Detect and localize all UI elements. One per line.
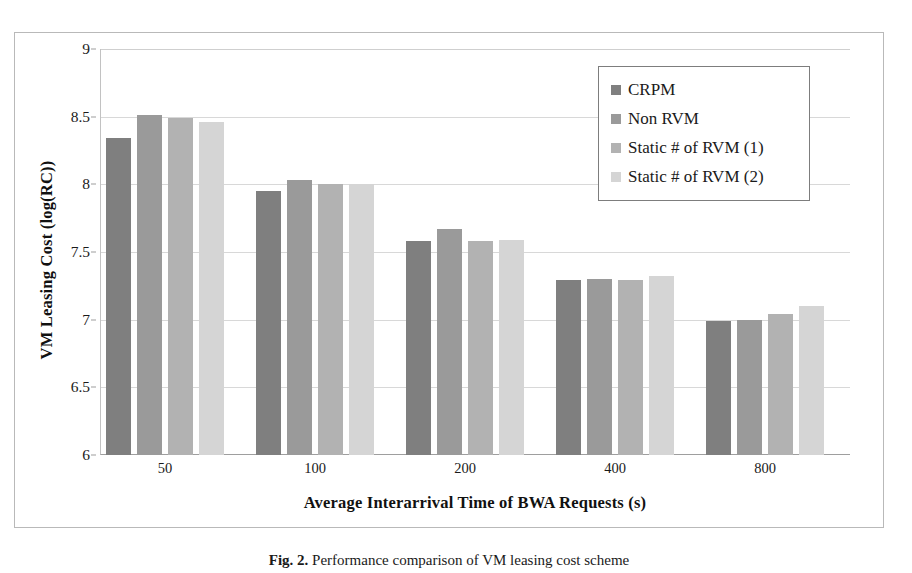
bar [406, 241, 431, 455]
x-tick-label: 50 [158, 460, 173, 477]
bar [287, 180, 312, 455]
y-tick-mark [91, 455, 96, 456]
bar-group [100, 49, 250, 455]
legend-item: Non RVM [611, 104, 799, 133]
chart-legend: CRPMNon RVMStatic # of RVM (1)Static # o… [598, 66, 810, 201]
caption-label: Fig. 2. [269, 552, 309, 568]
figure-caption: Fig. 2. Performance comparison of VM lea… [14, 552, 884, 569]
y-tick-mark [91, 116, 96, 117]
bar [618, 280, 643, 455]
y-tick-label: 6.5 [71, 378, 90, 396]
bar [649, 276, 674, 455]
legend-swatch-icon [611, 143, 621, 153]
bar [706, 321, 731, 455]
caption-text: Performance comparison of VM leasing cos… [312, 552, 629, 568]
bar-group [400, 49, 550, 455]
bar [106, 138, 131, 455]
legend-swatch-icon [611, 85, 621, 95]
bar [318, 184, 343, 455]
x-tick-label: 800 [754, 460, 776, 477]
legend-label: CRPM [628, 81, 675, 98]
y-axis-ticks: 66.577.588.59 [52, 49, 96, 455]
bar [437, 229, 462, 455]
x-axis-title: Average Interarrival Time of BWA Request… [100, 493, 850, 513]
bar [737, 320, 762, 455]
y-tick-label: 9 [82, 40, 90, 58]
y-tick-mark [91, 184, 96, 185]
legend-item: CRPM [611, 75, 799, 104]
bar [468, 241, 493, 455]
bar [556, 280, 581, 455]
y-tick-mark [91, 387, 96, 388]
y-tick-label: 6 [82, 446, 90, 464]
legend-swatch-icon [611, 172, 621, 182]
bar [768, 314, 793, 455]
bar [587, 279, 612, 455]
y-tick-label: 8 [82, 175, 90, 193]
bar [256, 191, 281, 455]
legend-label: Static # of RVM (2) [628, 168, 764, 185]
y-tick-mark [91, 49, 96, 50]
y-tick-label: 7.5 [71, 243, 90, 261]
legend-swatch-icon [611, 114, 621, 124]
bar [168, 118, 193, 455]
x-tick-label: 400 [604, 460, 626, 477]
bar [349, 184, 374, 455]
x-tick-label: 200 [454, 460, 476, 477]
y-tick-label: 7 [82, 311, 90, 329]
y-tick-mark [91, 252, 96, 253]
bar [137, 115, 162, 455]
bar [799, 306, 824, 455]
bar-group [250, 49, 400, 455]
x-tick-label: 100 [304, 460, 326, 477]
y-tick-label: 8.5 [71, 108, 90, 126]
legend-item: Static # of RVM (2) [611, 162, 799, 191]
legend-label: Static # of RVM (1) [628, 139, 764, 156]
bar [499, 240, 524, 455]
x-axis-ticks: 50100200400800 [100, 460, 850, 482]
legend-label: Non RVM [628, 110, 699, 127]
bar [199, 122, 224, 455]
y-tick-mark [91, 319, 96, 320]
legend-item: Static # of RVM (1) [611, 133, 799, 162]
